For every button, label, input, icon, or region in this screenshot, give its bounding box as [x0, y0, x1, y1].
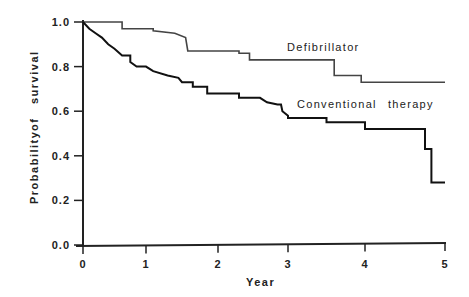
survival-chart: 0.00.20.40.60.81.0 012345 Defibrillator …: [0, 0, 469, 297]
label-therapy: therapy: [388, 98, 434, 110]
y-axis-title-of: of: [28, 118, 40, 131]
x-tick-label: 0: [79, 258, 86, 270]
y-tick-label: 0.8: [52, 61, 70, 73]
x-tick-label: 5: [441, 258, 448, 270]
x-tick-label: 1: [142, 258, 149, 270]
label-conventional: Conventional: [297, 98, 377, 110]
y-tick-label: 0.2: [52, 194, 70, 206]
y-tick-label: 0.4: [52, 150, 70, 162]
y-tick-label: 0.6: [52, 105, 70, 117]
x-tick-label: 4: [361, 258, 368, 270]
x-tick-label: 3: [284, 258, 291, 270]
y-ticks: 0.00.20.40.60.81.0: [52, 16, 83, 251]
x-axis: [76, 243, 446, 246]
series-defibrillator: [83, 22, 445, 82]
y-tick-label: 1.0: [52, 16, 70, 28]
x-axis-title: Year: [246, 276, 275, 288]
label-defibrillator: Defibrillator: [287, 41, 360, 53]
x-tick-label: 2: [214, 258, 221, 270]
y-tick-label: 0.0: [52, 239, 70, 251]
x-ticks: 012345: [79, 243, 448, 270]
y-axis-title-survival: survival: [28, 50, 40, 104]
y-axis-title-probability: Probability: [28, 131, 40, 204]
